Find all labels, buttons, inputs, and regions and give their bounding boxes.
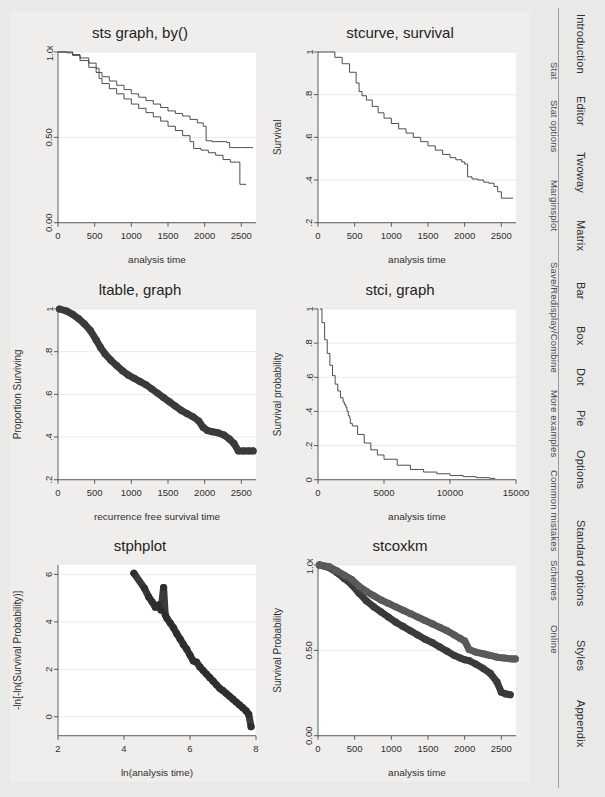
data-point-marker [436, 644, 443, 651]
tab-matrix[interactable]: Matrix [575, 220, 586, 251]
tab-appendix[interactable]: Appendix [575, 700, 586, 747]
y-tick-label: .8 [303, 91, 314, 99]
tab-box[interactable]: Box [575, 326, 586, 346]
y-tick-label: .2 [43, 475, 54, 483]
chart-svg: 0.2.4.6.81050001000015000analysis timeSu… [270, 303, 530, 526]
data-point-marker [160, 394, 167, 401]
tab-twoway[interactable]: Twoway [575, 152, 586, 193]
tab-editor[interactable]: Editor [575, 96, 586, 126]
y-tick-label: 0.50 [303, 641, 314, 659]
chart-grid: sts graph, by() 0.000.501.00050010001500… [10, 12, 530, 782]
x-tick-label: 2000 [194, 230, 215, 241]
data-point-marker [97, 343, 104, 350]
data-point-marker [93, 336, 100, 343]
data-point-marker [479, 665, 486, 672]
plot-area: 0.2.4.6.81050001000015000analysis timeSu… [270, 303, 530, 526]
data-point-marker [461, 638, 468, 645]
data-point-marker [160, 584, 167, 591]
x-tick-label: 8 [253, 743, 258, 754]
data-point-marker [392, 604, 399, 611]
x-axis-title: recurrence free survival time [94, 510, 220, 521]
data-point-marker [113, 362, 120, 369]
y-tick-label: 1.00 [303, 559, 314, 574]
plot-area: 0.000.501.0005001000150020002500analysis… [270, 559, 530, 782]
data-point-marker [370, 604, 377, 611]
data-point-marker [107, 356, 114, 363]
x-tick-label: 1500 [417, 743, 438, 754]
y-axis-title: Survival [272, 120, 283, 155]
x-tick-label: 2 [55, 743, 60, 754]
subtab-more-examples[interactable]: More examples [549, 390, 559, 458]
x-tick-label: 0 [315, 743, 320, 754]
y-tick-label: .8 [43, 347, 54, 355]
data-point-marker [141, 585, 148, 592]
x-axis-title: analysis time [388, 510, 446, 521]
x-axis-title: ln(analysis time) [121, 767, 193, 778]
data-point-marker [154, 389, 161, 396]
x-tick-label: 1500 [157, 486, 178, 497]
subtab-stat-options[interactable]: Stat options [549, 100, 559, 153]
subtab-common-mistakes[interactable]: Common mistakes [549, 470, 559, 552]
x-tick-label: 2500 [231, 230, 252, 241]
x-tick-label: 5000 [373, 486, 394, 497]
chart-svg: 0.000.501.0005001000150020002500analysis… [10, 46, 270, 269]
y-tick-label: .8 [303, 339, 314, 347]
data-point-marker [189, 413, 196, 420]
x-axis-title: analysis time [128, 254, 186, 265]
tab-pie[interactable]: Pie [575, 410, 586, 427]
x-tick-label: 1000 [121, 486, 142, 497]
data-point-marker [363, 588, 370, 595]
x-tick-label: 500 [87, 486, 103, 497]
subtab-marginsplot[interactable]: Marginsplot [549, 180, 559, 231]
data-point-marker [465, 646, 472, 653]
data-point-marker [370, 592, 377, 599]
chart-title: stcurve, survival [270, 24, 530, 41]
x-axis-title: analysis time [388, 254, 446, 265]
tab-bar[interactable]: Bar [575, 282, 586, 300]
data-point-marker [148, 385, 155, 392]
tab-options[interactable]: Options [575, 450, 586, 489]
y-tick-label: 2 [43, 667, 54, 672]
data-point-marker [501, 655, 508, 662]
chart-cell-stcoxkm: stcoxkm 0.000.501.0005001000150020002500… [270, 525, 530, 782]
data-point-marker [172, 402, 179, 409]
data-point-marker [385, 600, 392, 607]
data-point-marker [325, 563, 332, 570]
tab-dot[interactable]: Dot [575, 368, 586, 386]
data-point-marker [316, 562, 323, 569]
x-tick-label: 500 [347, 743, 363, 754]
chart-cell-stcurve-survival: stcurve, survival .2.4.6.810500100015002… [270, 12, 530, 269]
tab-introduction[interactable]: Introduction [575, 14, 586, 74]
subtab-save-redisplay-combine[interactable]: Save/Redisplay/Combine [549, 262, 559, 373]
y-axis-title: Survival Probability [272, 608, 283, 693]
data-point-marker [377, 597, 384, 604]
data-point-marker [399, 623, 406, 630]
x-tick-label: 2500 [491, 743, 512, 754]
x-tick-label: 2000 [454, 230, 475, 241]
x-tick-label: 15000 [503, 486, 529, 497]
subtab-stat[interactable]: Stat [549, 62, 559, 80]
page-root: sts graph, by() 0.000.501.00050010001500… [0, 0, 605, 797]
y-axis-title: Survival probability [272, 352, 283, 436]
x-tick-label: 0 [315, 230, 320, 241]
y-tick-label: .6 [43, 390, 54, 398]
x-tick-label: 10000 [437, 486, 463, 497]
tab-styles[interactable]: Styles [575, 640, 586, 671]
data-point-marker [195, 417, 202, 424]
data-point-marker [119, 367, 126, 374]
chart-title: stcoxkm [270, 537, 530, 554]
y-tick-label: 4 [43, 620, 54, 625]
data-point-marker [385, 614, 392, 621]
data-point-marker [81, 320, 88, 327]
chart-cell-stphplot: stphplot 02462468ln(analysis time)-ln[-l… [10, 525, 270, 782]
x-tick-label: 2500 [231, 486, 252, 497]
data-point-marker [166, 398, 173, 405]
plot-area: .2.4.6.8105001000150020002500recurrence … [10, 303, 270, 526]
x-tick-label: 2000 [194, 486, 215, 497]
subtab-schemes[interactable]: Schemes [549, 560, 559, 601]
data-point-marker [56, 305, 63, 312]
subtab-online[interactable]: Online [549, 625, 559, 654]
tab-standard-options[interactable]: Standard options [575, 520, 586, 606]
chart-svg: 0.000.501.0005001000150020002500analysis… [270, 559, 530, 782]
chart-title: stci, graph [270, 281, 530, 298]
